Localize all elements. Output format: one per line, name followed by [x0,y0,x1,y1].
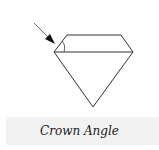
arrow-icon [34,23,55,44]
diagram-caption: Crown Angle [0,117,159,145]
diamond-outline [54,35,133,107]
angle-arc-icon [62,41,65,52]
